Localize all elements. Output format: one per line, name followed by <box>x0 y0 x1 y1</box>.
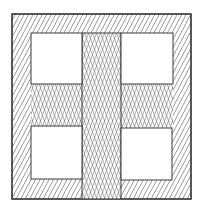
bottom-left-window <box>31 126 82 179</box>
bottom-right-window <box>121 128 172 180</box>
top-left-window <box>31 33 82 84</box>
cross-frame-diagram <box>0 0 203 214</box>
top-right-window <box>121 33 173 84</box>
